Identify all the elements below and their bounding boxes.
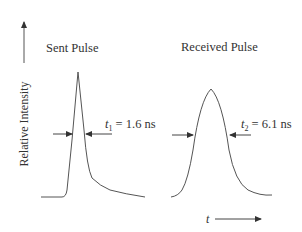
y-axis-label: Relative Intensity	[17, 82, 31, 167]
received-pulse-title: Received Pulse	[181, 40, 258, 54]
received-width-label: t2 = 6.1 ns	[241, 117, 292, 133]
received-pulse-curve	[171, 89, 272, 197]
pulse-diagram: Relative Intensity Sent Pulse Received P…	[0, 0, 302, 232]
sent-pulse-title: Sent Pulse	[46, 41, 99, 55]
sent-width-label: t1 = 1.6 ns	[105, 117, 156, 133]
x-axis-label: t	[206, 212, 210, 226]
